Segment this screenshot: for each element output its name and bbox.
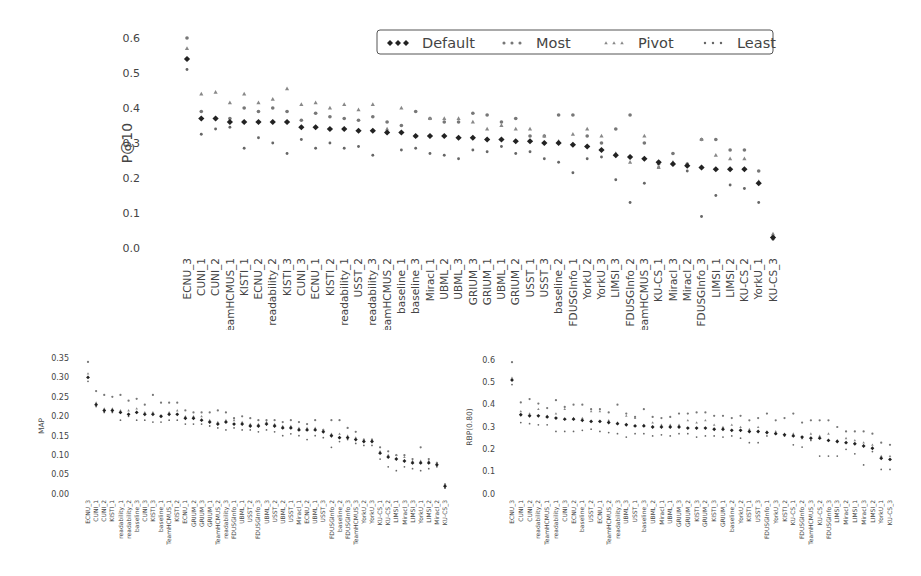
data-point: [657, 165, 661, 169]
data-point: [599, 408, 601, 410]
data-point: [617, 433, 619, 435]
data-point: [420, 446, 422, 448]
x-tick-label: readability_1: [552, 500, 560, 539]
data-point: [871, 433, 873, 435]
data-point: [731, 417, 733, 419]
x-tick-label: ECNU_1: [181, 500, 189, 524]
x-tick-label: TeamHCMUS_3: [638, 258, 651, 330]
x-tick-label: KISTI_3: [149, 500, 157, 522]
x-tick-label: YorkU_2: [360, 500, 368, 525]
x-tick-label: GRIUM_2: [701, 500, 709, 527]
legend-marker-circle-icon: [518, 41, 521, 44]
x-tick-label: readability_3: [614, 500, 622, 539]
data-point: [257, 136, 260, 139]
x-tick-label: GRIUM_1: [206, 500, 214, 527]
data-point: [111, 396, 113, 398]
x-tick-label: UBML_1: [495, 258, 508, 300]
data-point: [740, 437, 742, 439]
data-point: [248, 424, 252, 428]
data-point: [712, 427, 716, 431]
data-point: [87, 380, 89, 382]
data-point: [643, 141, 647, 145]
data-point: [730, 423, 733, 425]
data-point: [546, 424, 548, 426]
data-point: [514, 117, 518, 121]
data-point: [457, 157, 460, 160]
data-point: [266, 429, 268, 431]
data-point: [743, 148, 747, 152]
legend-marker-circle-icon: [502, 41, 505, 44]
legend-label: Least: [737, 35, 776, 51]
x-tick-label: Miracl_3: [860, 500, 868, 525]
data-point: [183, 416, 187, 420]
data-point: [748, 442, 750, 444]
data-point: [343, 147, 346, 150]
data-point: [119, 394, 121, 396]
data-point: [827, 432, 830, 434]
series-default: [86, 376, 447, 489]
data-point: [687, 433, 689, 435]
data-point: [242, 92, 246, 96]
data-point: [871, 444, 874, 446]
data-point: [541, 140, 547, 146]
data-point: [757, 426, 760, 428]
data-point: [355, 128, 361, 134]
x-tick-label: KU-CS_3: [441, 500, 449, 525]
x-tick-label: KISTI_2: [173, 500, 181, 522]
data-point: [585, 127, 589, 131]
data-point: [743, 187, 746, 190]
data-point: [258, 431, 260, 433]
data-point: [854, 453, 856, 455]
x-tick-label: LIMSI_2: [425, 500, 433, 523]
data-point: [427, 133, 433, 139]
data-point: [643, 182, 646, 185]
x-tick-label: baseline_1: [157, 500, 165, 532]
data-point: [399, 106, 403, 110]
x-tick-label: baseline_3: [640, 500, 648, 532]
x-tick-label: TeamHCMUS_2: [381, 258, 394, 330]
data-point: [300, 118, 304, 122]
data-point: [282, 421, 284, 423]
series-default: [510, 378, 892, 461]
data-point: [184, 423, 186, 425]
x-tick-label: LIMSI_3: [833, 500, 841, 523]
data-point: [686, 426, 690, 430]
x-tick-label: FDUSGInfo_2: [624, 258, 637, 326]
data-point: [240, 422, 244, 426]
data-point: [152, 394, 154, 396]
data-point: [265, 422, 269, 426]
x-tick-label: Miracl_2: [433, 500, 441, 525]
data-point: [572, 404, 574, 406]
data-point: [872, 451, 874, 453]
x-tick-label: USST_2: [352, 258, 365, 297]
data-point: [241, 415, 243, 417]
data-point: [87, 372, 90, 374]
data-point: [384, 129, 390, 135]
data-point: [801, 446, 803, 448]
data-point: [192, 411, 194, 413]
data-point: [420, 470, 422, 472]
x-tick-label: LIMSI_1: [851, 500, 859, 523]
data-point: [339, 441, 341, 443]
y-tick-label: 0.0: [482, 490, 495, 499]
data-point: [854, 430, 856, 432]
y-tick-label: 0.00: [51, 490, 69, 499]
data-point: [757, 201, 760, 204]
data-point: [342, 117, 346, 121]
data-point: [160, 421, 162, 423]
data-point: [290, 419, 292, 421]
data-point: [135, 407, 138, 409]
x-tick-label: USST_3: [538, 258, 551, 297]
series-most: [185, 36, 775, 239]
data-point: [355, 443, 357, 445]
data-point: [651, 425, 655, 429]
data-point: [678, 412, 680, 414]
data-point: [328, 106, 332, 110]
x-tick-label: readability_3: [222, 500, 230, 539]
data-point: [862, 441, 865, 443]
data-point: [571, 171, 574, 174]
data-point: [241, 119, 247, 125]
data-point: [770, 234, 776, 240]
data-point: [347, 427, 349, 429]
data-point: [457, 120, 461, 124]
